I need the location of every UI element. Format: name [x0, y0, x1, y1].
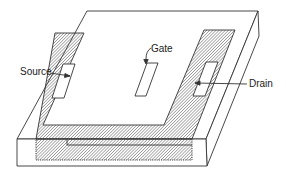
- drain-label: Drain: [249, 79, 273, 89]
- source-label: Source: [20, 67, 52, 77]
- gate-label: Gate: [151, 44, 173, 54]
- mosfet-diagram: [0, 0, 286, 178]
- diffusion-region-front: [36, 139, 192, 160]
